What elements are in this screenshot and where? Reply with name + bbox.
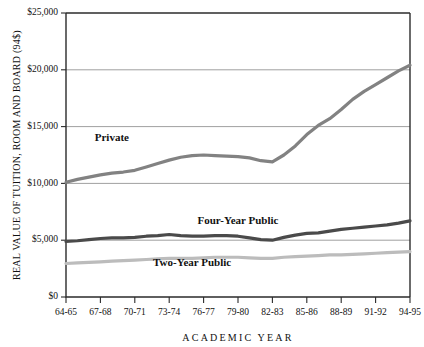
y-tick-label: $5,000 <box>32 234 58 244</box>
x-axis-title: ACADEMIC YEAR <box>182 332 293 343</box>
x-tick-label: 73-74 <box>158 307 180 317</box>
series-label-four-year-public: Four-Year Public <box>198 214 279 226</box>
y-axis-tick-marks <box>61 13 66 297</box>
x-tick-label: 70-71 <box>124 307 146 317</box>
x-axis-tick-marks <box>66 297 410 303</box>
y-axis-title: REAL VALUE OF TUITION, ROOM AND BOARD (9… <box>11 30 23 280</box>
series-label-two-year-public: Two-Year Public <box>153 256 231 268</box>
series-line-two-year-public <box>66 252 410 264</box>
y-tick-label: $15,000 <box>27 121 58 131</box>
y-axis-tick-labels: $25,000$20,000$15,000$10,000$5,000$0 <box>27 7 58 301</box>
x-tick-label: 88-89 <box>330 307 352 317</box>
x-tick-label: 76-77 <box>193 307 215 317</box>
series-label-private: Private <box>95 131 129 143</box>
x-tick-label: 82-83 <box>261 307 283 317</box>
x-tick-label: 94-95 <box>399 307 421 317</box>
y-tick-label: $25,000 <box>27 7 58 17</box>
x-tick-label: 64-65 <box>55 307 77 317</box>
series-lines <box>66 65 410 263</box>
y-tick-label: $0 <box>49 291 59 301</box>
series-annotations: PrivateFour-Year PublicTwo-Year Public <box>95 131 279 268</box>
y-tick-label: $20,000 <box>27 64 58 74</box>
x-axis-tick-labels: 64-6567-6870-7173-7476-7779-8082-8385-86… <box>55 307 421 317</box>
x-tick-label: 67-68 <box>89 307 111 317</box>
chart-container: REAL VALUE OF TUITION, ROOM AND BOARD (9… <box>0 0 424 347</box>
y-tick-label: $10,000 <box>27 178 58 188</box>
x-tick-label: 85-86 <box>296 307 318 317</box>
series-line-private <box>66 65 410 182</box>
tuition-line-chart: REAL VALUE OF TUITION, ROOM AND BOARD (9… <box>0 0 424 347</box>
x-tick-label: 79-80 <box>227 307 249 317</box>
y-axis-title-group: REAL VALUE OF TUITION, ROOM AND BOARD (9… <box>11 30 23 280</box>
x-tick-label: 91-92 <box>365 307 387 317</box>
